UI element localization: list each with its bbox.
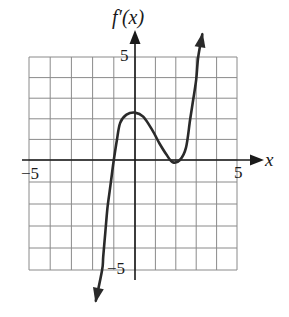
derivative-graph: f′(x) x −5 5 5 −5 <box>0 0 289 317</box>
x-axis-arrow-icon <box>250 155 264 166</box>
x-tick-max-label: 5 <box>234 163 243 182</box>
y-tick-min-label: −5 <box>107 259 125 278</box>
y-tick-max-label: 5 <box>120 46 129 65</box>
x-axis-variable-label: x <box>264 149 274 170</box>
curve-arrow-up-icon <box>195 32 206 48</box>
grid <box>29 57 237 270</box>
y-axis-arrow-icon <box>130 30 141 44</box>
x-tick-min-label: −5 <box>21 164 39 183</box>
y-axis-title: f′(x) <box>112 6 144 29</box>
